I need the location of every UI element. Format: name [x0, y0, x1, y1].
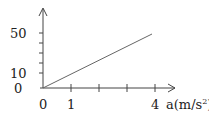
- x-axis-label: a(m/s2): [166, 98, 209, 111]
- x-tick-label-1: 1: [67, 98, 75, 111]
- y-tick-label-0: 0: [14, 82, 22, 95]
- x-tick-label-0: 0: [39, 98, 47, 111]
- y-tick-label-50: 50: [10, 27, 27, 40]
- x-tick-label-4: 4: [151, 98, 159, 111]
- y-tick-label-10: 10: [10, 67, 27, 80]
- y-ticks: [39, 33, 43, 73]
- data-line: [43, 34, 152, 88]
